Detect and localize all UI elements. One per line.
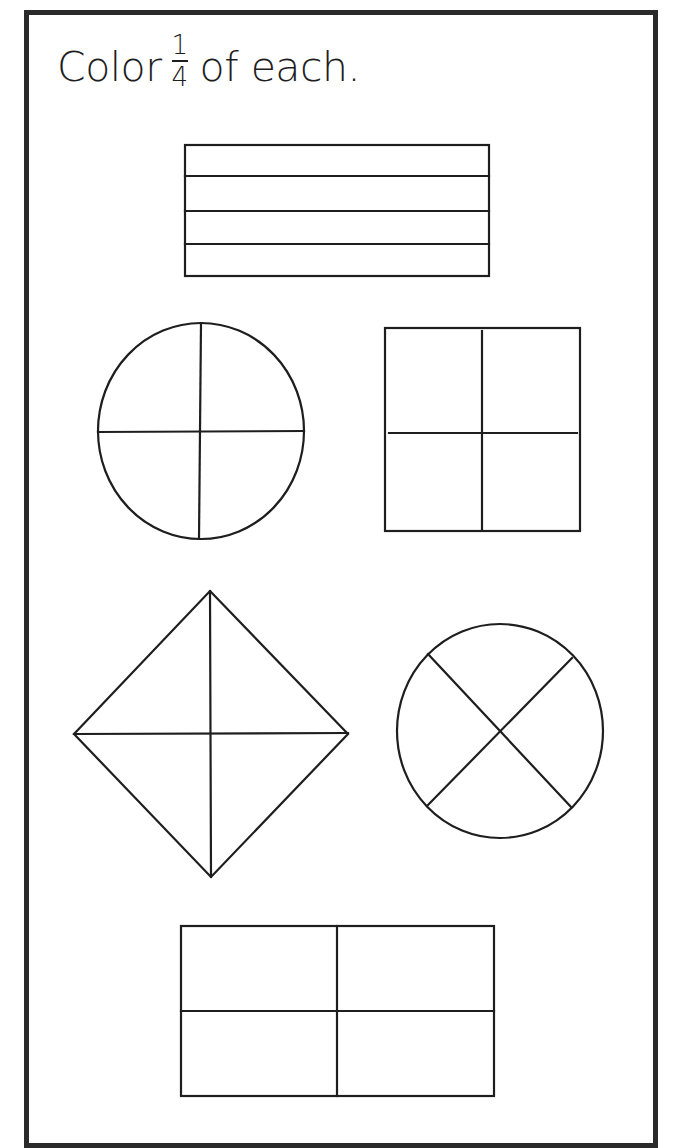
circle-x[interactable] bbox=[397, 624, 603, 838]
circle-horizontal-divider bbox=[98, 431, 304, 432]
square-cross[interactable] bbox=[385, 328, 580, 531]
rectangle-quadrants[interactable] bbox=[181, 926, 494, 1096]
diamond-cross[interactable] bbox=[74, 591, 348, 877]
rectangle-horizontal-strips[interactable] bbox=[185, 145, 489, 276]
diamond-horizontal-divider bbox=[74, 733, 348, 734]
circle-diagonal-divider-2 bbox=[428, 658, 572, 805]
circle-cross[interactable] bbox=[98, 323, 304, 539]
